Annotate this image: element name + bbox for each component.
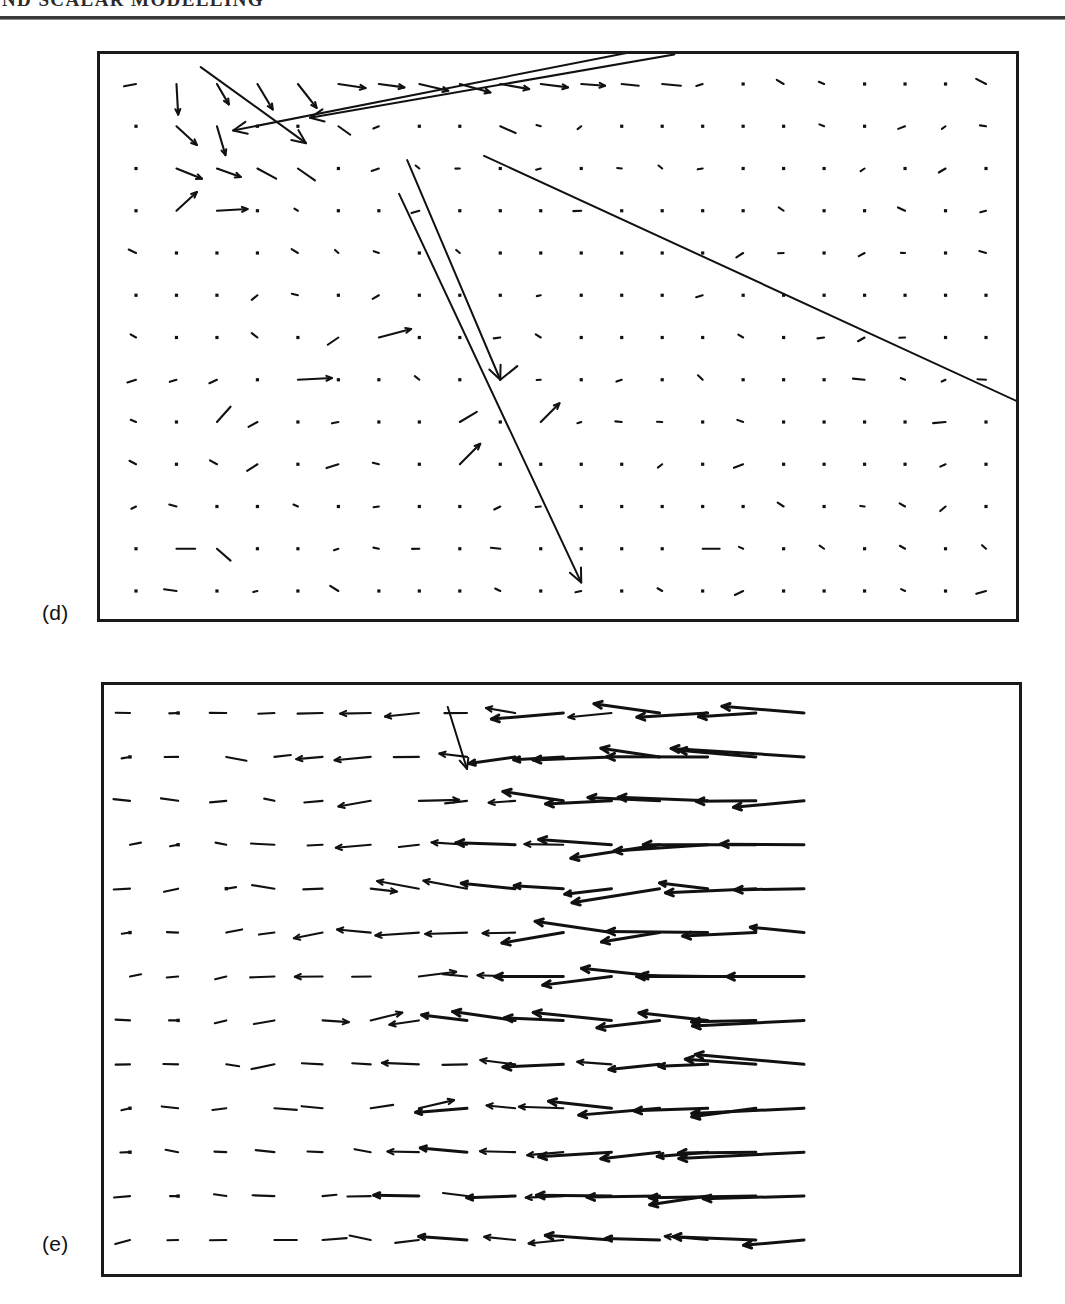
vector-field-plot-d	[100, 54, 1016, 619]
running-head: ND SCALAR MODELLING	[0, 0, 1065, 15]
panel-label-d: (d)	[42, 601, 69, 625]
figure-panel-d	[97, 51, 1019, 622]
vector-field-plot-e	[104, 685, 1019, 1274]
header-rule-secondary	[0, 19, 1065, 20]
figure-panel-e	[101, 682, 1022, 1277]
panel-label-e: (e)	[42, 1232, 69, 1256]
running-head-text: ND SCALAR MODELLING	[2, 0, 264, 11]
